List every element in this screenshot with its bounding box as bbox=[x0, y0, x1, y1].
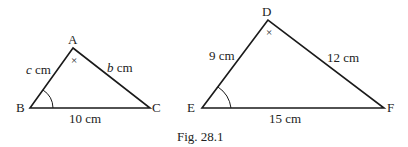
triangles-drawing bbox=[0, 0, 408, 147]
side-de-label: 9 cm bbox=[209, 49, 235, 62]
side-df-label: 12 cm bbox=[327, 51, 359, 64]
triangle-abc bbox=[30, 48, 150, 108]
side-ac-unit: cm bbox=[114, 60, 133, 75]
vertex-e-label: E bbox=[187, 101, 195, 114]
vertex-d-label: D bbox=[262, 5, 271, 18]
side-ab-unit: cm bbox=[32, 62, 51, 77]
side-ac-label: b cm bbox=[107, 61, 133, 74]
angle-d-mark: × bbox=[266, 27, 272, 38]
figure-28-1: A B C × c cm b cm 10 cm D E F × 9 cm 12 … bbox=[0, 0, 408, 147]
angle-b-arc bbox=[43, 90, 53, 108]
vertex-a-label: A bbox=[68, 33, 77, 46]
side-ab-label: c cm bbox=[26, 63, 51, 76]
angle-a-mark: × bbox=[71, 55, 77, 66]
side-ef-label: 15 cm bbox=[269, 112, 301, 125]
figure-caption: Fig. 28.1 bbox=[177, 130, 224, 143]
angle-e-arc bbox=[218, 87, 231, 108]
vertex-c-label: C bbox=[152, 101, 161, 114]
side-bc-label: 10 cm bbox=[69, 112, 101, 125]
vertex-f-label: F bbox=[387, 101, 394, 114]
vertex-b-label: B bbox=[16, 101, 25, 114]
